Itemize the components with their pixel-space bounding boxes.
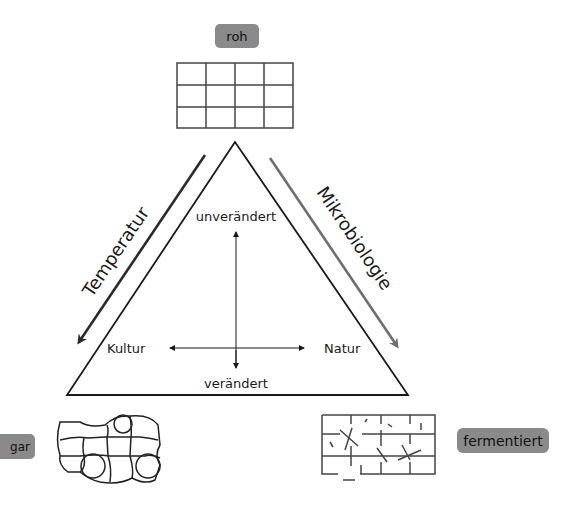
fermentiert-node: fermentiert [322,415,549,480]
axis-label-kultur: Kultur [107,341,146,356]
cooked-cells-icon [58,415,161,483]
roh-node: roh [177,24,293,128]
fermented-cells-icon [322,415,435,480]
raw-grid-icon [177,63,293,128]
fermentiert-label: fermentiert [463,433,543,449]
culinary-triangle-diagram: roh Temperatur Mikrobiologie unverändert… [0,0,576,513]
axis-label-natur: Natur [324,341,361,356]
axis-label-unveraendert: unverändert [196,209,276,224]
triangle [67,142,408,395]
temperature-arrow [79,155,205,342]
axis-label-veraendert: verändert [204,376,268,391]
gar-label: gar [10,440,30,454]
roh-label: roh [226,29,247,44]
gar-node: gar [0,415,160,483]
